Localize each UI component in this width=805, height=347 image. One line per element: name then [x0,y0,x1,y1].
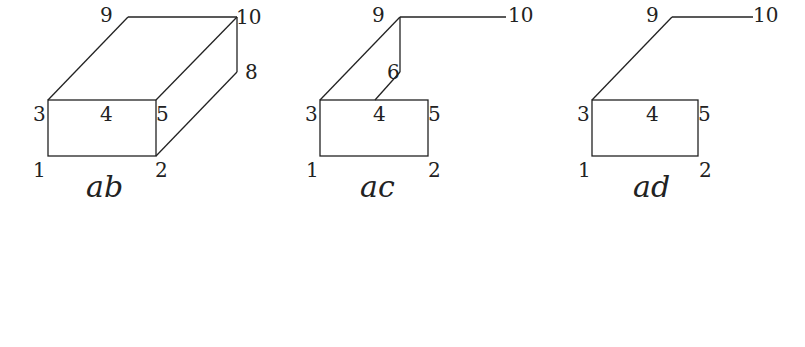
label-9: 9 [372,3,385,27]
label-5: 5 [156,102,169,126]
caption-ad: ad [633,169,670,204]
label-3: 3 [305,102,318,126]
label-2: 2 [155,158,168,182]
label-10: 10 [753,3,778,27]
figure-ab: 9 10 8 3 4 5 1 2 ab [33,3,261,204]
label-3: 3 [33,102,46,126]
caption-ab: ab [86,169,123,204]
label-1: 1 [33,158,46,182]
edge-5-10 [156,17,237,100]
front-face [592,100,698,156]
label-6: 6 [387,60,400,84]
label-8: 8 [245,60,258,84]
label-9: 9 [100,3,113,27]
label-2: 2 [428,158,441,182]
label-4: 4 [646,102,659,126]
label-3: 3 [577,102,590,126]
label-1: 1 [306,158,319,182]
label-4: 4 [100,102,113,126]
label-5: 5 [428,102,441,126]
label-5: 5 [698,102,711,126]
label-4: 4 [373,102,386,126]
edge-3-9 [48,17,128,100]
figure-ac: 9 10 6 3 4 5 1 2 ac [305,3,533,204]
figure-ad: 9 10 3 4 5 1 2 ad [577,3,778,204]
label-9: 9 [646,3,659,27]
diagram-canvas: 9 10 8 3 4 5 1 2 ab 9 10 6 3 4 5 1 2 ac … [0,0,805,347]
edge-3-9 [320,17,400,100]
label-10: 10 [236,5,261,29]
label-2: 2 [699,158,712,182]
edge-3-9 [592,17,672,100]
label-1: 1 [578,158,591,182]
caption-ac: ac [360,169,395,204]
label-10: 10 [508,3,533,27]
